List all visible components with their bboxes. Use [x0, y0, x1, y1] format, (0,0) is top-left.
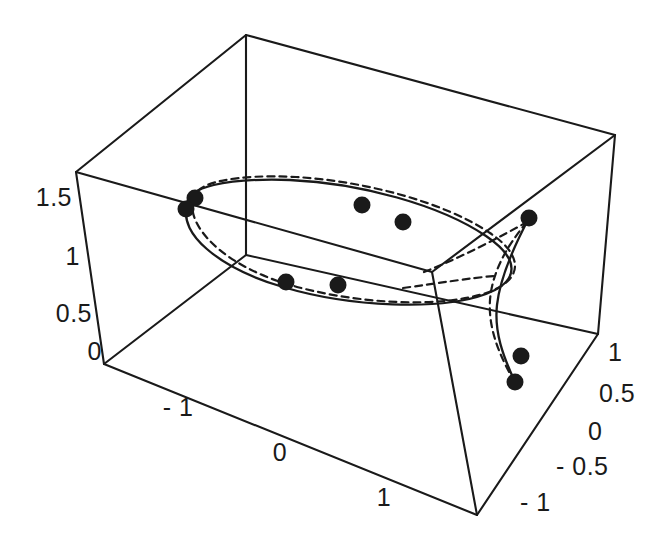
data-point	[395, 214, 412, 231]
data-point	[330, 277, 347, 294]
z-axis-tick-1: 1.5	[36, 185, 72, 210]
plot-canvas	[0, 0, 650, 542]
reference-curve-chord2-dashed	[403, 276, 494, 288]
data-point	[354, 197, 371, 214]
frame-edge-top-back-right	[246, 35, 615, 135]
plot-figure: 1.5 1 0.5 0 - 1 0 1 1 0.5 0 - 0.5 - 1	[0, 0, 650, 542]
reference-curve-dashed	[192, 176, 515, 302]
frame-edge-bottom-left	[104, 364, 477, 515]
frame-edge-vertical-front	[432, 272, 477, 515]
data-points	[178, 190, 538, 391]
data-point	[521, 210, 538, 227]
fitted-curve-solid	[186, 180, 511, 305]
frame-edge-floor-left	[104, 255, 246, 364]
y-axis-tick-1: 1	[608, 340, 622, 365]
data-point	[513, 348, 530, 365]
data-point	[278, 274, 295, 291]
data-point	[507, 374, 524, 391]
y-axis-tick-4: - 0.5	[556, 454, 609, 479]
axis-frame	[76, 35, 615, 515]
x-axis-tick-2: 0	[273, 440, 287, 465]
y-axis-tick-3: 0	[588, 419, 602, 444]
frame-edge-top-front-right	[432, 135, 615, 272]
frame-edge-top-back-left	[76, 35, 246, 172]
x-axis-tick-1: - 1	[163, 395, 194, 420]
x-axis-tick-3: 1	[377, 485, 391, 510]
z-axis-tick-4: 0	[88, 339, 102, 364]
frame-edge-vertical-right	[598, 135, 615, 334]
y-axis-tick-2: 0.5	[599, 381, 635, 406]
z-axis-tick-3: 0.5	[56, 301, 92, 326]
frame-edge-vertical-left	[76, 172, 104, 364]
frame-edge-floor-back	[246, 255, 598, 334]
z-axis-tick-2: 1	[66, 244, 80, 269]
data-point	[178, 201, 195, 218]
y-axis-tick-5: - 1	[520, 490, 551, 515]
